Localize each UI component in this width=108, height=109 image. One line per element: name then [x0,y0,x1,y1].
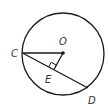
segment-oe [54,53,63,70]
label-d: D [88,95,96,106]
label-c: C [11,48,18,59]
geometry-diagram: O C E D [0,0,108,109]
center-point [61,51,65,55]
chord-cd [23,53,89,88]
label-o: O [59,36,67,47]
label-e: E [45,74,52,85]
